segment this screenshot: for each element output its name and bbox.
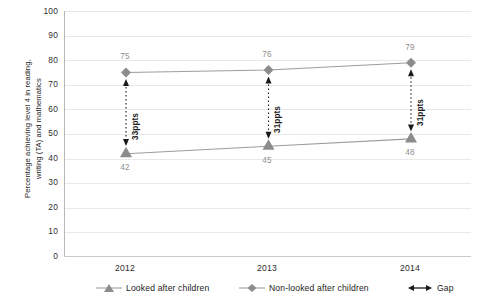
y-tick-label-40: 40 xyxy=(32,153,58,163)
gap-label-2014: 31ppts xyxy=(416,99,425,126)
x-tick-label-2013: 2013 xyxy=(237,263,297,273)
legend-label-non-looked-after-children: Non-looked after children xyxy=(269,282,369,294)
value-label-non-looked-2012: 75 xyxy=(112,52,138,61)
gap-arrow-2012 xyxy=(123,79,129,146)
y-tick-label-90: 90 xyxy=(32,30,58,40)
marker-diamond-2012 xyxy=(121,68,131,78)
legend-item-looked-after-children[interactable]: Looked after children xyxy=(96,279,209,297)
legend-item-gap[interactable]: Gap xyxy=(407,279,454,297)
marker-diamond-2013 xyxy=(264,65,274,75)
gap-label-2012: 33ppts xyxy=(131,113,140,140)
y-tick-label-30: 30 xyxy=(32,177,58,187)
gap-arrow-2014 xyxy=(408,69,414,131)
value-label-looked-2012: 42 xyxy=(112,163,138,172)
value-label-non-looked-2014: 79 xyxy=(397,43,423,52)
chart-legend: Looked after children Non-looked after c… xyxy=(64,279,484,297)
gap-arrow-2013 xyxy=(266,77,272,139)
chart-container: Percentage achieving level 4 in reading,… xyxy=(0,0,491,302)
y-tick-label-100: 100 xyxy=(32,6,58,16)
legend-label-looked-after-children: Looked after children xyxy=(126,282,209,294)
diamond-line-key-icon xyxy=(239,282,265,294)
y-tick-label-50: 50 xyxy=(32,128,58,138)
marker-triangle-2012 xyxy=(120,147,132,158)
legend-item-non-looked-after-children[interactable]: Non-looked after children xyxy=(239,279,369,297)
double-arrow-key-icon xyxy=(407,282,433,294)
y-tick-label-60: 60 xyxy=(32,104,58,114)
marker-triangle-2013 xyxy=(263,139,275,150)
y-tick-label-20: 20 xyxy=(32,202,58,212)
gap-label-2013: 31ppts xyxy=(273,106,282,133)
y-tick-label-80: 80 xyxy=(32,55,58,65)
y-tick-label-10: 10 xyxy=(32,226,58,236)
y-tick-label-70: 70 xyxy=(32,79,58,89)
legend-label-gap: Gap xyxy=(437,282,454,294)
y-tick-label-0: 0 xyxy=(32,251,58,261)
x-tick-label-2012: 2012 xyxy=(95,263,155,273)
value-label-looked-2014: 48 xyxy=(397,148,423,157)
value-label-non-looked-2013: 76 xyxy=(254,50,280,59)
value-label-looked-2013: 45 xyxy=(254,156,280,165)
marker-triangle-2014 xyxy=(405,132,417,143)
x-tick-label-2014: 2014 xyxy=(380,263,440,273)
triangle-line-key-icon xyxy=(96,282,122,294)
marker-diamond-2014 xyxy=(406,58,416,68)
